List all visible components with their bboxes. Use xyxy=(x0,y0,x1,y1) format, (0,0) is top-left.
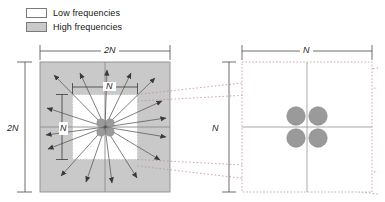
legend-label-low-frequencies: Low frequencies xyxy=(53,8,120,18)
dot-top-left xyxy=(97,119,105,127)
legend-item-low-frequencies: Low frequencies xyxy=(26,7,122,19)
dimension-n-right-left xyxy=(222,62,236,192)
high-frequency-swatch-icon xyxy=(26,22,47,32)
right-panel-group xyxy=(222,45,372,192)
dot-bottom-left xyxy=(97,128,105,136)
label-n-inner-top: N xyxy=(103,82,116,91)
zoom-dot-top-right xyxy=(309,107,327,125)
dot-bottom-right xyxy=(106,128,114,136)
label-n-inner-left: N xyxy=(59,122,68,135)
low-frequency-swatch-icon xyxy=(26,8,47,18)
left-panel-group xyxy=(17,45,170,192)
label-2n-left: 2N xyxy=(6,122,20,135)
dot-top-right xyxy=(106,119,114,127)
legend-label-high-frequencies: High frequencies xyxy=(53,22,122,32)
label-2n-top: 2N xyxy=(101,46,119,55)
zoom-dot-bottom-left xyxy=(287,129,305,147)
legend: Low frequencies High frequencies xyxy=(26,7,122,33)
zoom-dot-top-left xyxy=(287,107,305,125)
label-n-right-top: N xyxy=(300,46,313,55)
zoom-dot-bottom-right xyxy=(309,129,327,147)
diagram-canvas: Low frequencies High frequencies 2N 2N N… xyxy=(0,0,385,202)
legend-item-high-frequencies: High frequencies xyxy=(26,21,122,33)
label-n-right-left: N xyxy=(211,122,220,135)
